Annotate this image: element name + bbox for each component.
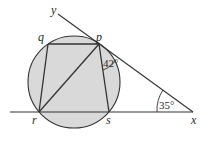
label-x: x xyxy=(190,113,197,127)
angle-label-p: 42° xyxy=(103,57,118,69)
geometry-diagram: y q p r s x 42° 35° xyxy=(0,0,213,141)
angle-label-x: 35° xyxy=(159,99,174,111)
label-y: y xyxy=(50,3,57,17)
diagram-canvas: y q p r s x 42° 35° xyxy=(0,0,213,141)
label-s: s xyxy=(106,113,111,127)
label-q: q xyxy=(38,30,44,44)
label-r: r xyxy=(32,113,37,127)
label-p: p xyxy=(95,30,102,44)
